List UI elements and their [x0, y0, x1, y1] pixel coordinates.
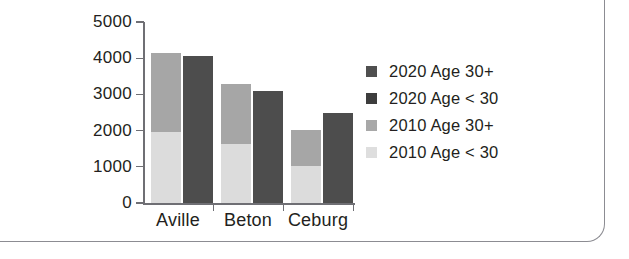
legend-swatch-icon	[366, 93, 377, 104]
legend-label: 2020 Age 30+	[389, 62, 494, 81]
x-axis-tick	[213, 203, 214, 211]
bar-segment	[291, 166, 321, 203]
bar-segment	[323, 113, 353, 204]
legend-label: 2010 Age 30+	[389, 116, 494, 135]
bar-segment	[151, 53, 181, 133]
bar-ceburg-2010	[291, 130, 321, 203]
legend-item: 2010 Age < 30	[366, 139, 566, 166]
x-axis-tick	[353, 203, 354, 211]
y-axis-tick-label: 3000	[52, 84, 132, 104]
bar-segment	[221, 144, 251, 203]
x-axis-category-label: Ceburg	[288, 210, 348, 231]
bar-segment	[151, 132, 181, 203]
stacked-bar-chart: 010002000300040005000 AvilleBetonCeburg …	[0, 0, 629, 259]
chart-legend: 2020 Age 30+2020 Age < 302010 Age 30+201…	[366, 58, 566, 166]
y-axis-tick-label: 5000	[52, 12, 132, 32]
y-axis-tick-label: 1000	[52, 157, 132, 177]
y-axis-tick-label: 2000	[52, 121, 132, 141]
x-axis-category-label: Beton	[224, 210, 272, 231]
legend-swatch-icon	[366, 120, 377, 131]
y-axis-tick-label: 4000	[52, 48, 132, 68]
x-axis-tick	[283, 203, 284, 211]
bar-beton-2020	[253, 91, 283, 203]
legend-swatch-icon	[366, 66, 377, 77]
bar-segment	[291, 130, 321, 166]
y-axis-tick-label: 0	[52, 193, 132, 213]
bar-ceburg-2020	[323, 113, 353, 204]
legend-label: 2020 Age < 30	[389, 89, 499, 108]
x-axis-line	[143, 203, 355, 205]
legend-swatch-icon	[366, 147, 377, 158]
bar-aville-2020	[183, 56, 213, 203]
legend-item: 2010 Age 30+	[366, 112, 566, 139]
x-axis-category-label: Aville	[156, 210, 200, 231]
legend-item: 2020 Age < 30	[366, 85, 566, 112]
bar-aville-2010	[151, 53, 181, 203]
bar-segment	[253, 91, 283, 203]
plot-area	[143, 22, 353, 203]
bar-segment	[183, 56, 213, 203]
legend-item: 2020 Age 30+	[366, 58, 566, 85]
bar-segment	[221, 84, 251, 144]
legend-label: 2010 Age < 30	[389, 143, 499, 162]
bar-beton-2010	[221, 84, 251, 203]
